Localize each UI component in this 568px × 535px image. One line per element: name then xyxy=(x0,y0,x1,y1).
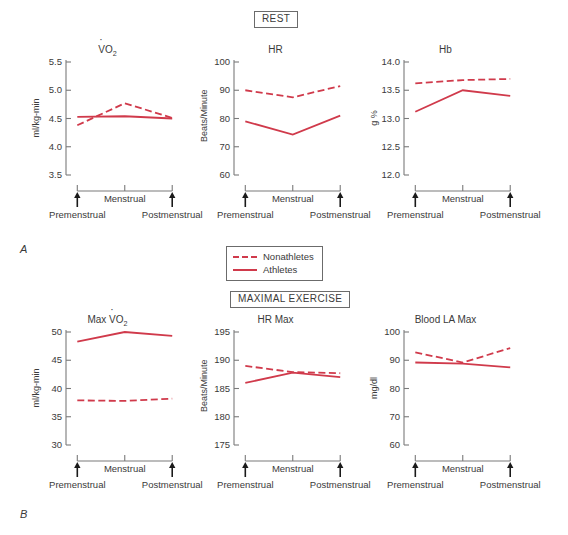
x-label-premenstrual: Premenstrual xyxy=(383,479,447,490)
series-line-nonathletes xyxy=(415,348,510,362)
chart-vo2-rest: VO2ml/kg-min5.55.04.54.03.5MenstrualPrem… xyxy=(30,44,185,219)
x-label-menstrual: Menstrual xyxy=(435,193,491,204)
panel-letter-a: A xyxy=(20,243,27,255)
legend-solid-line-icon xyxy=(233,268,257,272)
series-line-athletes xyxy=(415,363,510,368)
x-label-premenstrual: Premenstrual xyxy=(213,209,277,220)
series-line-nonathletes xyxy=(415,79,510,84)
x-label-premenstrual: Premenstrual xyxy=(213,479,277,490)
series-line-athletes xyxy=(415,90,510,111)
legend-item-nonathletes: Nonathletes xyxy=(233,250,314,263)
x-label-postmenstrual: Postmenstrual xyxy=(476,479,544,490)
series-line-nonathletes xyxy=(77,103,172,125)
chart-hr-rest: HRBeats/Minute10090807060MenstrualPremen… xyxy=(198,44,353,219)
panel-letter-b: B xyxy=(20,508,27,520)
series-line-athletes xyxy=(77,332,172,342)
chart-bloodlamax: Blood LA Maxmg/dl10090807060MenstrualPre… xyxy=(368,314,523,489)
section-header-maximal-exercise: MAXIMAL EXERCISE xyxy=(230,291,350,308)
x-label-premenstrual: Premenstrual xyxy=(45,209,109,220)
legend: Nonathletes Athletes xyxy=(226,246,323,281)
chart-hb-rest: Hbg %14.013.513.012.512.0MenstrualPremen… xyxy=(368,44,523,219)
chart-hrmax: HR MaxBeats/Minute195190185180175Menstru… xyxy=(198,314,353,489)
series-line-athletes xyxy=(245,116,340,135)
x-label-menstrual: Menstrual xyxy=(435,463,491,474)
legend-dashed-line-icon xyxy=(233,255,257,259)
x-label-menstrual: Menstrual xyxy=(97,193,153,204)
x-label-postmenstrual: Postmenstrual xyxy=(306,209,374,220)
series-line-athletes xyxy=(245,373,340,383)
series-line-nonathletes xyxy=(245,86,340,97)
x-label-postmenstrual: Postmenstrual xyxy=(138,209,206,220)
x-label-premenstrual: Premenstrual xyxy=(45,479,109,490)
chart-maxvo2: Max VO2ml/kg-min5045403530MenstrualPreme… xyxy=(30,314,185,489)
x-label-postmenstrual: Postmenstrual xyxy=(476,209,544,220)
x-label-premenstrual: Premenstrual xyxy=(383,209,447,220)
legend-label-nonathletes: Nonathletes xyxy=(263,252,314,262)
x-label-menstrual: Menstrual xyxy=(97,463,153,474)
x-label-postmenstrual: Postmenstrual xyxy=(306,479,374,490)
series-line-nonathletes xyxy=(77,399,172,401)
figure-root: REST MAXIMAL EXERCISE A B Nonathletes At… xyxy=(0,0,568,535)
section-header-rest: REST xyxy=(254,11,298,28)
legend-item-athletes: Athletes xyxy=(233,263,314,276)
x-label-postmenstrual: Postmenstrual xyxy=(138,479,206,490)
legend-label-athletes: Athletes xyxy=(263,265,297,275)
x-label-menstrual: Menstrual xyxy=(265,463,321,474)
x-label-menstrual: Menstrual xyxy=(265,193,321,204)
